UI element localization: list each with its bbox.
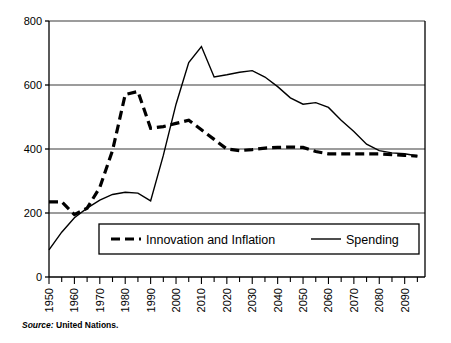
x-tick-label-2020: 2020 [221, 288, 233, 312]
gridlines [49, 21, 425, 213]
x-tick-group [49, 277, 417, 284]
x-tick-label-2000: 2000 [170, 288, 182, 312]
x-tick-label-group: 1950196019701980199020002010202020302040… [43, 288, 411, 312]
y-tick-label-600: 600 [24, 79, 42, 91]
x-tick-label-1960: 1960 [68, 288, 80, 312]
x-tick-label-2040: 2040 [272, 288, 284, 312]
series-line-0 [49, 91, 417, 214]
source-note: Source: United Nations. [22, 320, 118, 330]
x-tick-label-1950: 1950 [43, 288, 55, 312]
x-tick-label-2010: 2010 [195, 288, 207, 312]
chart-figure: 0200400600800 19501960197019801990200020… [0, 0, 451, 343]
x-tick-label-2030: 2030 [246, 288, 258, 312]
y-tick-label-200: 200 [24, 207, 42, 219]
y-tick-label-400: 400 [24, 143, 42, 155]
y-tick-label-800: 800 [24, 15, 42, 27]
y-tick-label-0: 0 [36, 271, 42, 283]
legend-label-0: Innovation and Inflation [146, 233, 275, 247]
source-keyword: Source: [22, 320, 54, 330]
x-tick-label-2070: 2070 [348, 288, 360, 312]
series-group [49, 47, 417, 250]
x-tick-label-1980: 1980 [119, 288, 131, 312]
source-value: United Nations. [54, 320, 119, 330]
legend-label-1: Spending [346, 233, 399, 247]
x-tick-label-2050: 2050 [297, 288, 309, 312]
x-tick-label-1970: 1970 [94, 288, 106, 312]
y-tick-label-group: 0200400600800 [24, 15, 42, 283]
line-chart: 0200400600800 19501960197019801990200020… [0, 0, 451, 343]
x-tick-label-1990: 1990 [145, 288, 157, 312]
x-tick-label-2080: 2080 [373, 288, 385, 312]
x-tick-label-2090: 2090 [399, 288, 411, 312]
chart-legend: Innovation and InflationSpending [99, 224, 419, 254]
x-tick-label-2060: 2060 [322, 288, 334, 312]
